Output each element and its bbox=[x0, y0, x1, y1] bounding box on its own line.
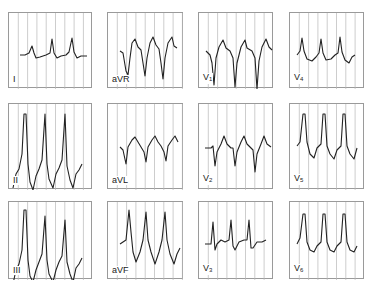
ecg-waveform bbox=[120, 136, 178, 164]
lead-label: V1 bbox=[203, 73, 213, 84]
lead-label: V5 bbox=[294, 174, 304, 185]
lead-label-text: III bbox=[13, 265, 21, 275]
lead-label-text: aVF bbox=[112, 265, 129, 275]
lead-label: V4 bbox=[294, 73, 304, 84]
lead-label: aVL bbox=[112, 176, 129, 185]
lead-label-text: II bbox=[13, 175, 18, 185]
lead-panel-v6: V6 bbox=[289, 201, 364, 279]
ecg-waveform bbox=[20, 38, 87, 58]
ecg-waveform bbox=[120, 37, 177, 79]
lead-panel-avl: aVL bbox=[107, 103, 183, 189]
ecg-waveform bbox=[205, 220, 266, 250]
lead-label: aVF bbox=[112, 266, 130, 275]
lead-panel-avf: aVF bbox=[107, 201, 183, 279]
lead-label: V2 bbox=[203, 174, 213, 185]
lead-label-subscript: 1 bbox=[209, 76, 212, 82]
lead-label: I bbox=[13, 75, 17, 84]
ecg-trace-area bbox=[9, 13, 93, 89]
lead-panel-v4: V4 bbox=[289, 12, 364, 88]
lead-panel-v1: V1 bbox=[198, 12, 273, 88]
ecg-trace-area bbox=[9, 104, 93, 190]
ecg-waveform bbox=[13, 114, 82, 190]
lead-label: V6 bbox=[294, 264, 304, 275]
lead-panel-v5: V5 bbox=[289, 103, 364, 189]
ecg-waveform bbox=[206, 39, 272, 89]
lead-label-subscript: 4 bbox=[300, 76, 303, 82]
lead-label-subscript: 3 bbox=[209, 267, 212, 273]
lead-panel-ii: II bbox=[8, 103, 92, 189]
lead-panel-i: I bbox=[8, 12, 92, 88]
lead-label: V3 bbox=[203, 264, 213, 275]
lead-panel-v3: V3 bbox=[198, 201, 273, 279]
lead-label-subscript: 6 bbox=[300, 267, 303, 273]
lead-label-subscript: 2 bbox=[209, 177, 212, 183]
ecg-waveform bbox=[205, 136, 271, 172]
ecg-trace-area bbox=[9, 202, 93, 280]
lead-label: aVR bbox=[112, 75, 131, 84]
lead-label-subscript: 5 bbox=[300, 177, 303, 183]
lead-label: III bbox=[13, 266, 22, 275]
lead-panel-iii: III bbox=[8, 201, 92, 279]
lead-label-text: aVL bbox=[112, 175, 128, 185]
lead-label-text: aVR bbox=[112, 74, 130, 84]
ecg-waveform bbox=[13, 210, 82, 280]
lead-panel-avr: aVR bbox=[107, 12, 183, 88]
ecg-waveform bbox=[297, 37, 355, 63]
ecg-waveform bbox=[120, 210, 180, 264]
lead-label: II bbox=[13, 176, 19, 185]
lead-panel-v2: V2 bbox=[198, 103, 273, 189]
lead-label-text: I bbox=[13, 74, 16, 84]
